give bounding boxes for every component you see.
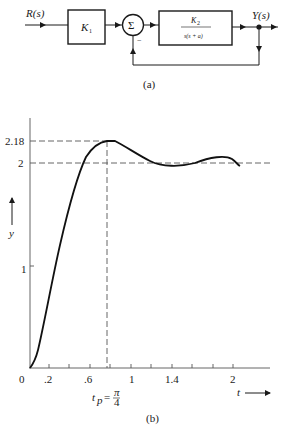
x-tick-label-0-2: .2	[44, 373, 52, 385]
x-ticks	[49, 364, 233, 368]
x-tick-label-1: 1	[129, 373, 135, 385]
summer-minus-sign: −	[137, 36, 142, 45]
x-tick-label-0: 0	[19, 373, 25, 385]
input-label: R(s)	[25, 7, 45, 20]
block1-label: K	[80, 21, 89, 33]
block-diagram: R(s) K 1 Σ − K 2 s(s + a) Y(s) (a)	[25, 7, 278, 91]
arrow-icon	[115, 22, 121, 28]
y-tick-label-2-18: 2.18	[5, 135, 25, 147]
arrow-icon	[150, 22, 156, 28]
output-arrow-icon	[271, 24, 277, 30]
block1-sub: 1	[89, 28, 92, 34]
peak-time-sub: p	[96, 394, 103, 406]
block2-numerator-sub: 2	[197, 20, 200, 26]
x-tick-label-0-6: .6	[84, 373, 93, 385]
block2-numerator: K	[190, 16, 197, 25]
arrow-icon	[130, 48, 136, 54]
x-axis-label: t	[237, 386, 241, 398]
figure-canvas: R(s) K 1 Σ − K 2 s(s + a) Y(s) (a)	[0, 0, 286, 431]
peak-time-label: t	[92, 391, 96, 403]
x-tick-label-1-4: 1.4	[165, 373, 179, 385]
response-plot: 0 .2 .6 1 1.4 2 1 2 2.18 y t t p = π 4 (…	[5, 118, 270, 425]
x-tick-label-2: 2	[230, 373, 236, 385]
caption-b: (b)	[146, 412, 159, 425]
caption-a: (a)	[143, 78, 156, 91]
y-axis-label: y	[8, 227, 14, 239]
peak-time-equals: =	[104, 391, 110, 403]
output-label: Y(s)	[252, 9, 270, 22]
peak-time-denominator: 4	[114, 396, 120, 408]
y-tick-label-2: 2	[18, 157, 24, 169]
arrow-icon	[256, 46, 262, 52]
summer-symbol: Σ	[128, 19, 134, 31]
input-arrow-icon	[40, 22, 46, 28]
y-tick-label-1: 1	[21, 263, 27, 275]
block2-denominator: s(s + a)	[184, 33, 203, 40]
response-curve	[30, 141, 240, 368]
arrow-icon	[240, 24, 246, 30]
